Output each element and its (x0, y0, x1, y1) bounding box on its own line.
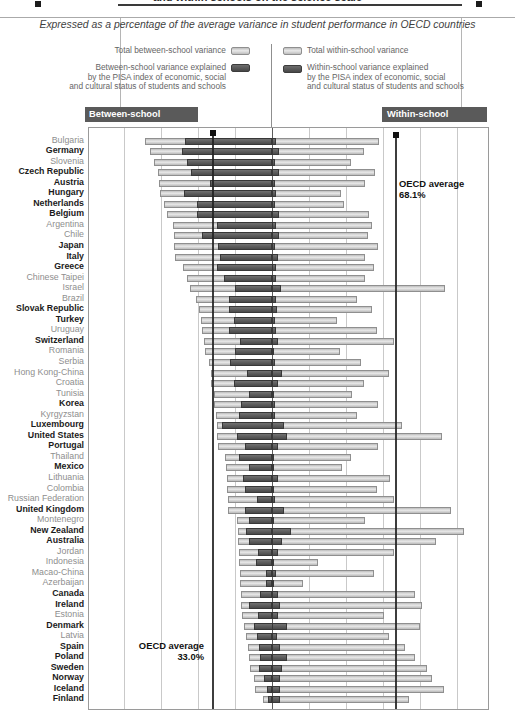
within-total-bar (272, 433, 442, 440)
within-explained-bar (272, 169, 279, 176)
country-label: Latvia (0, 630, 84, 641)
gridline (457, 128, 458, 709)
oecd-average-within-label: OECD average (399, 179, 464, 190)
within-explained-bar (272, 623, 287, 630)
dark-bar-swatch-icon (231, 64, 250, 72)
gridline (161, 128, 162, 709)
within-total-bar (272, 538, 436, 545)
between-explained-bar (234, 317, 272, 324)
within-total-bar (272, 623, 420, 630)
within-total-bar (272, 275, 365, 282)
within-total-bar (272, 559, 318, 566)
between-explained-bar (235, 348, 272, 355)
between-explained-bar (230, 359, 272, 366)
within-explained-bar (272, 675, 280, 682)
within-total-bar (272, 570, 374, 577)
country-label: Estonia (0, 609, 84, 620)
country-label: Czech Republic (0, 166, 84, 177)
country-label: Korea (0, 398, 84, 409)
within-total-bar (272, 633, 389, 640)
between-explained-bar (258, 612, 272, 619)
between-explained-bar (249, 464, 272, 471)
between-explained-bar (239, 454, 272, 461)
within-total-bar (272, 243, 378, 250)
within-total-bar (272, 317, 337, 324)
within-total-bar (272, 549, 394, 556)
between-explained-bar (229, 306, 272, 313)
within-total-bar (272, 665, 427, 672)
between-explained-bar (247, 370, 272, 377)
dark-bar-swatch-icon (283, 65, 302, 73)
between-explained-bar (237, 433, 272, 440)
within-total-bar (272, 580, 303, 587)
within-total-bar (272, 517, 365, 524)
zero-axis-line (272, 128, 273, 709)
within-explained-bar (272, 433, 287, 440)
oecd-average-between-marker (210, 130, 216, 136)
within-total-bar (272, 443, 378, 450)
country-label: Russian Federation (0, 493, 84, 504)
legend-total-within: Total within-school variance (283, 46, 408, 56)
within-total-bar (272, 675, 432, 682)
legend-between-explained: Between-school variance explained by the… (69, 63, 250, 92)
country-label: Japan (0, 240, 84, 251)
oecd-average-within-annotation: OECD average 68.1% (399, 179, 464, 200)
within-total-bar (272, 338, 394, 345)
between-explained-bar (187, 159, 272, 166)
country-label: Montenegro (0, 514, 84, 525)
title-underline (118, 4, 462, 6)
between-explained-bar (184, 190, 272, 197)
country-label: Australia (0, 535, 84, 546)
between-school-panel-header: Between-school variance (85, 107, 198, 122)
within-total-bar (272, 475, 390, 482)
country-label: Belgium (0, 208, 84, 219)
country-label: Poland (0, 651, 84, 662)
within-total-bar (272, 686, 444, 693)
within-total-bar (272, 306, 372, 313)
within-explained-bar (272, 644, 280, 651)
oecd-average-within-value: 68.1% (399, 190, 464, 201)
between-explained-bar (257, 496, 272, 503)
country-label: Mexico (0, 461, 84, 472)
country-label: Portugal (0, 440, 84, 451)
between-explained-bar (245, 486, 272, 493)
within-total-bar (272, 454, 351, 461)
legend-between-explained-l3: and cultural status of students and scho… (69, 82, 226, 92)
between-explained-bar (229, 327, 272, 334)
figure-subtitle: Expressed as a percentage of the average… (0, 19, 515, 30)
country-label: Lithuania (0, 472, 84, 483)
figure-variance-between-within-schools: and within schools on the science scale … (0, 0, 515, 715)
between-explained-bar (256, 559, 272, 566)
within-total-bar (272, 654, 415, 661)
legend-within-explained-l3: and cultural status of students and scho… (307, 82, 464, 92)
within-explained-bar (272, 422, 284, 429)
country-label: Serbia (0, 356, 84, 367)
between-explained-bar (224, 275, 272, 282)
country-label: Azerbaijan (0, 577, 84, 588)
between-explained-bar (241, 401, 272, 408)
country-label: Greece (0, 261, 84, 272)
oecd-average-between-line (212, 133, 214, 709)
between-explained-bar (229, 296, 272, 303)
between-explained-bar (249, 517, 272, 524)
between-explained-bar (254, 623, 273, 630)
country-label: Finland (0, 693, 84, 704)
within-total-bar (272, 169, 375, 176)
oecd-average-between-annotation: OECD average 33.0% (139, 641, 204, 662)
legend-total-within-label: Total within-school variance (307, 45, 408, 55)
between-explained-bar (249, 602, 272, 609)
within-explained-bar (272, 686, 280, 693)
between-explained-bar (245, 443, 272, 450)
country-label: Canada (0, 588, 84, 599)
within-explained-bar (272, 211, 279, 218)
within-total-bar (272, 644, 405, 651)
within-explained-bar (272, 528, 291, 535)
legend-divider (271, 44, 272, 127)
between-explained-bar (191, 169, 272, 176)
within-total-bar (272, 159, 351, 166)
within-total-bar (272, 591, 415, 598)
country-label: Croatia (0, 377, 84, 388)
within-explained-bar (272, 285, 281, 292)
within-total-bar (272, 422, 402, 429)
between-explained-bar (197, 201, 272, 208)
